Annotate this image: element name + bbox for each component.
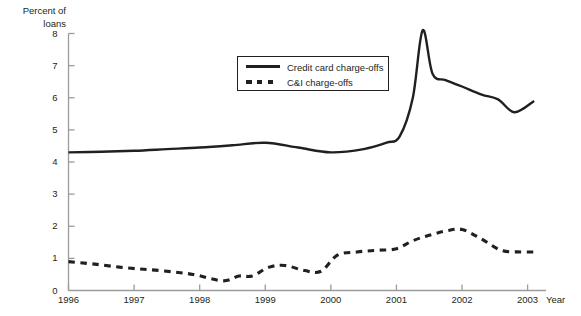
y-axis-tick-label: 3	[36, 189, 58, 199]
x-axis-tick-label: 1999	[243, 295, 287, 305]
y-axis-tick-label: 8	[36, 29, 58, 39]
y-axis-ticks	[69, 34, 75, 259]
chart-container: Percent of loans Year 012345678 19961997…	[0, 0, 581, 316]
x-axis-tick-label: 1997	[112, 295, 156, 305]
y-axis-tick-label: 1	[36, 253, 58, 263]
legend-swatch-solid-line-icon	[246, 61, 280, 73]
chart-legend: Credit card charge-offs C&I charge-offs	[237, 56, 389, 91]
x-axis-tick-label: 2001	[374, 295, 418, 305]
x-axis-tick-label: 1998	[178, 295, 222, 305]
x-axis-tick-label: 2000	[309, 295, 353, 305]
plot-area	[0, 0, 581, 316]
legend-label-ci: C&I charge-offs	[287, 77, 353, 88]
y-axis-tick-label: 7	[36, 61, 58, 71]
series-line-ci	[69, 229, 535, 281]
legend-item-ci: C&I charge-offs	[246, 75, 353, 89]
y-axis-tick-label: 4	[36, 157, 58, 167]
series-line-credit-card	[69, 30, 535, 152]
y-axis-tick-label: 5	[36, 125, 58, 135]
y-axis-tick-label: 6	[36, 93, 58, 103]
legend-swatch-dashed-line-icon	[246, 76, 280, 88]
x-axis-tick-label: 2003	[506, 295, 550, 305]
x-axis-tick-label: 2002	[440, 295, 484, 305]
y-axis-tick-label: 2	[36, 221, 58, 231]
x-axis-ticks	[69, 285, 528, 291]
legend-label-credit-card: Credit card charge-offs	[287, 62, 383, 73]
legend-item-credit-card: Credit card charge-offs	[246, 60, 383, 74]
x-axis-tick-label: 1996	[47, 295, 91, 305]
